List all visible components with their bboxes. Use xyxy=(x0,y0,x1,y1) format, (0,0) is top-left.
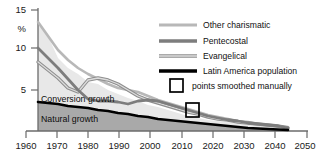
x-tick-label-1990: 1990 xyxy=(108,140,129,151)
x-tick-label-1960: 1960 xyxy=(15,140,36,151)
chart-container: Conversion growth Natural growth 15 % 10… xyxy=(0,0,317,163)
legend-label-pentecostal: Pentecostal xyxy=(203,36,248,46)
legend-label-latin-america-population: Latin America population xyxy=(203,66,297,76)
legend-label-evangelical: Evangelical xyxy=(203,51,247,61)
legend-item-latin-america-population: Latin America population xyxy=(159,66,297,76)
legend-item-evangelical: Evangelical xyxy=(159,51,247,61)
legend-item-other-charismatic: Other charismatic xyxy=(159,20,271,30)
legend-label-points-smoothed-manually: points smoothed manually xyxy=(192,81,293,91)
x-tick-label-2030: 2030 xyxy=(233,140,254,151)
legend-swatch-open-square-icon xyxy=(170,79,183,92)
annotation-natural-growth: Natural growth xyxy=(41,114,98,124)
x-tick-label-2040: 2040 xyxy=(264,140,285,151)
chart-legend: Other charismatic Pentecostal Evangelica… xyxy=(159,20,297,92)
x-tick-label-2020: 2020 xyxy=(202,140,223,151)
x-tick-label-2000: 2000 xyxy=(139,140,160,151)
x-tick-label-1970: 1970 xyxy=(46,140,67,151)
x-tick-label-2010: 2010 xyxy=(171,140,192,151)
legend-label-other-charismatic: Other charismatic xyxy=(203,20,271,30)
legend-item-points-smoothed-manually: points smoothed manually xyxy=(170,79,293,92)
y-tick-label-10: 10 xyxy=(15,42,26,53)
y-tick-label-5: 5 xyxy=(21,84,26,95)
legend-item-pentecostal: Pentecostal xyxy=(159,36,248,46)
y-axis-label-percent: % xyxy=(18,23,27,34)
annotation-conversion-growth: Conversion growth xyxy=(41,94,114,104)
line-chart: Conversion growth Natural growth 15 % 10… xyxy=(0,0,317,163)
y-tick-label-15: 15 xyxy=(15,4,26,15)
x-tick-label-2050: 2050 xyxy=(294,140,315,151)
x-tick-label-1980: 1980 xyxy=(77,140,98,151)
